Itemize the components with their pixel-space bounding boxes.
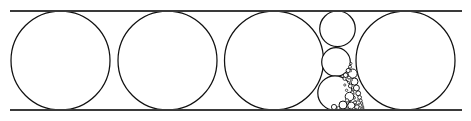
gap-circle-c7 bbox=[354, 101, 357, 104]
gap-circle-d1 bbox=[344, 84, 346, 86]
gap-circle-b7 bbox=[348, 84, 352, 88]
gap-circle-b4 bbox=[350, 62, 352, 64]
gap-circle-d3 bbox=[351, 79, 353, 81]
figure-canvas bbox=[0, 0, 471, 121]
gap-circle-d15 bbox=[350, 70, 352, 72]
gap-circle-b3 bbox=[349, 65, 352, 68]
gap-circle-c5 bbox=[331, 104, 336, 109]
gap-circle-a3 bbox=[353, 85, 359, 91]
large-circle-4 bbox=[356, 11, 455, 110]
gap-circle-b5 bbox=[343, 77, 346, 80]
gap-circle-d2 bbox=[345, 89, 347, 91]
column-circle-top bbox=[320, 11, 356, 47]
large-circle-3 bbox=[225, 11, 324, 110]
large-circle-1 bbox=[11, 11, 110, 110]
gap-circle-d13 bbox=[353, 93, 355, 95]
large-circle-2 bbox=[118, 11, 217, 110]
gap-circle-a4 bbox=[356, 91, 361, 96]
gap-circle-d6 bbox=[358, 103, 360, 105]
gap-circle-d5 bbox=[357, 100, 359, 102]
gap-circle-b6 bbox=[348, 76, 351, 79]
gap-circle-d4 bbox=[352, 89, 354, 91]
circle-packing-figure bbox=[0, 0, 471, 121]
gap-circle-c6 bbox=[345, 99, 348, 102]
gap-circle-d14 bbox=[348, 81, 350, 83]
